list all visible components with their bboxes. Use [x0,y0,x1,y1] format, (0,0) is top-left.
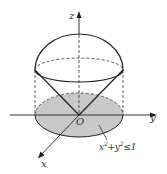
y-axis-label: y [150,113,156,123]
region-label: x2+y2≤1 [99,141,136,152]
z-axis-label: z [69,11,74,21]
equator-back-edge [35,58,123,70]
origin-label: O [76,117,84,127]
z-axis-arrow-icon [77,11,82,18]
diagram-canvas [0,0,167,174]
x-axis-label: x [41,159,47,169]
